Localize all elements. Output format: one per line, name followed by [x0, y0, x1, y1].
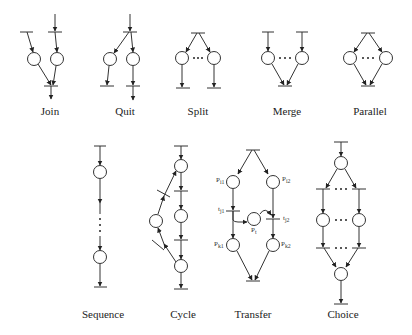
place-pi2	[267, 176, 280, 189]
pattern-split	[176, 33, 222, 88]
place	[262, 52, 275, 65]
place-pk2	[267, 239, 280, 252]
label-p-t: Pt	[251, 226, 257, 235]
label-p-k2: Pk2	[281, 240, 291, 249]
place	[94, 166, 107, 179]
label-p-k1: Pk1	[214, 240, 224, 249]
place-pk1	[227, 239, 240, 252]
place	[176, 52, 189, 65]
place	[353, 214, 366, 227]
ellipsis-dots	[99, 57, 374, 249]
pattern-cycle	[150, 146, 189, 289]
place	[28, 53, 41, 66]
label-parallel: Parallel	[353, 105, 387, 117]
label-p-i1: Pi1	[216, 176, 224, 185]
pattern-quit	[100, 14, 140, 100]
place	[335, 157, 348, 170]
pattern-join	[20, 14, 64, 99]
label-join: Join	[41, 105, 59, 117]
place	[127, 53, 140, 66]
petri-net-diagram	[0, 0, 412, 335]
place	[317, 214, 330, 227]
place	[175, 160, 188, 173]
label-p-i2: Pi2	[282, 175, 290, 184]
place	[94, 251, 107, 264]
label-cycle: Cycle	[170, 308, 196, 320]
place	[175, 210, 188, 223]
label-transfer: Transfer	[235, 308, 272, 320]
place	[51, 53, 64, 66]
place	[335, 268, 348, 281]
label-merge: Merge	[273, 105, 302, 117]
place	[344, 52, 357, 65]
pattern-parallel	[344, 33, 393, 86]
label-t-j2: tj2	[283, 214, 290, 223]
place	[380, 52, 393, 65]
place	[104, 53, 117, 66]
label-sequence: Sequence	[82, 308, 124, 320]
label-quit: Quit	[115, 105, 135, 117]
place	[296, 52, 309, 65]
place	[208, 52, 221, 65]
pattern-sequence	[94, 146, 108, 287]
label-t-j1: tj1	[218, 205, 225, 214]
transition-bar	[152, 240, 164, 250]
place	[150, 215, 163, 228]
pattern-transfer	[226, 150, 280, 281]
place-pi1	[227, 176, 240, 189]
label-choice: Choice	[327, 308, 358, 320]
place-pt	[248, 213, 261, 226]
label-split: Split	[188, 105, 209, 117]
pattern-choice	[316, 142, 366, 304]
place	[175, 260, 188, 273]
